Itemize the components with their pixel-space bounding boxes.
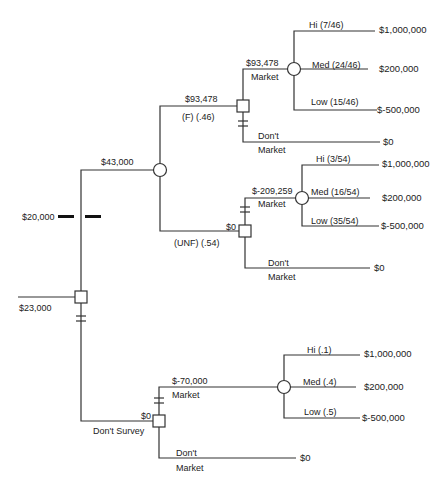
- unf-payoff-hi: $1,000,000: [382, 159, 430, 169]
- no-survey-market-value: $-70,000: [172, 376, 208, 386]
- unf-outcome-med: Med (16/54): [311, 187, 360, 197]
- fav-payoff-low: $-500,000: [377, 105, 420, 115]
- decision-node-no-survey: [153, 415, 165, 427]
- favorable-dont-market-2: Market: [258, 145, 286, 155]
- root-value: $23,000: [19, 303, 52, 313]
- fav-outcome-low: Low (15/46): [311, 97, 359, 107]
- unfavorable-prob: (UNF) (.54): [174, 238, 220, 248]
- fav-payoff-med: $200,000: [379, 64, 419, 74]
- chance-node-demand-unfavorable: [296, 192, 309, 205]
- no-survey-dont-market-1: Don't: [176, 448, 197, 458]
- survey-cost-bar-left: [58, 215, 74, 218]
- unf-payoff-med: $200,000: [382, 193, 422, 203]
- unfavorable-market-label: Market: [258, 199, 286, 209]
- survey-value: $43,000: [101, 157, 134, 167]
- unf-payoff-low: $-500,000: [381, 221, 424, 231]
- favorable-market-value: $93,478: [246, 58, 279, 68]
- no-survey-dont-market-payoff: $0: [300, 453, 311, 463]
- no-survey-dont-market-2: Market: [176, 463, 204, 473]
- fav-payoff-hi: $1,000,000: [379, 25, 427, 35]
- unfavorable-dont-market-2: Market: [268, 272, 296, 282]
- favorable-market-label: Market: [251, 72, 279, 82]
- favorable-dont-market-1: Don't: [258, 131, 279, 141]
- unfavorable-dont-market-payoff: $0: [374, 263, 385, 273]
- chance-node-survey-result: [154, 164, 167, 177]
- unfavorable-value: $0: [226, 222, 236, 232]
- unfavorable-market-value: $-209,259: [252, 186, 293, 196]
- ns-outcome-low: Low (.5): [304, 407, 337, 417]
- ns-payoff-hi: $1,000,000: [364, 349, 412, 359]
- no-survey-label: Don't Survey: [93, 426, 144, 436]
- decision-node-unfavorable: [239, 225, 251, 237]
- survey-cost-bar-right: [85, 215, 101, 218]
- unf-outcome-hi: Hi (3/54): [316, 154, 351, 164]
- chance-node-demand-favorable: [288, 63, 301, 76]
- decision-node-favorable: [237, 100, 249, 112]
- decision-node-root: [75, 291, 87, 303]
- favorable-value: $93,478: [185, 94, 218, 104]
- fav-outcome-hi: Hi (7/46): [309, 20, 344, 30]
- favorable-prob: (F) (.46): [182, 112, 215, 122]
- fav-outcome-med: Med (24/46): [312, 60, 361, 70]
- ns-payoff-med: $200,000: [364, 382, 404, 392]
- unfavorable-dont-market-1: Don't: [268, 258, 289, 268]
- survey-cost: $20,000: [22, 212, 55, 222]
- no-survey-market-label: Market: [172, 390, 200, 400]
- ns-payoff-low: $-500,000: [362, 413, 405, 423]
- ns-outcome-hi: Hi (.1): [307, 345, 332, 355]
- unf-outcome-low: Low (35/54): [311, 216, 359, 226]
- favorable-dont-market-payoff: $0: [383, 137, 394, 147]
- chance-node-demand-no-survey: [278, 381, 291, 394]
- no-survey-value: $0: [141, 411, 151, 421]
- ns-outcome-med: Med (.4): [303, 377, 337, 387]
